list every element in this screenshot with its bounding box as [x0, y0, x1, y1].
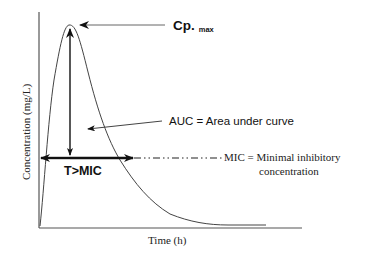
x-axis-label: Time (h)	[148, 234, 187, 247]
mic-label-line2: concentration	[259, 165, 319, 177]
auc-arrow	[88, 121, 162, 129]
mic-label-line1: MIC = Minimal inhibitory	[224, 151, 341, 163]
auc-label: AUC = Area under curve	[169, 115, 294, 127]
tmic-label: T>MIC	[64, 164, 102, 178]
y-axis-label: Concentration (mg/L)	[20, 83, 33, 180]
pk-diagram: Cp.max AUC = Area under curve MIC = Mini…	[0, 0, 366, 258]
cpmax-label: Cp.max	[173, 18, 215, 34]
